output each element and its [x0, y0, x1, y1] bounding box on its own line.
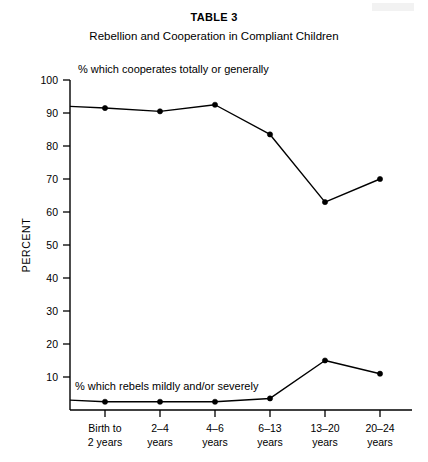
x-tick-label-line1: 6–13 — [258, 422, 282, 434]
data-point — [322, 200, 327, 205]
x-tick-label-line1: 13–20 — [310, 422, 339, 434]
x-tick-label-line2: years — [147, 436, 173, 448]
x-tick-label-line1: Birth to — [88, 422, 121, 434]
x-tick-label-line1: 4–6 — [206, 422, 224, 434]
annotation-lower-series: % which rebels mildly and/or severely — [75, 380, 259, 392]
y-tick-label: 50 — [46, 239, 58, 251]
figure-container: TABLE 3 Rebellion and Cooperation in Com… — [0, 0, 428, 462]
y-tick-marks — [63, 80, 70, 377]
y-tick-label: 80 — [46, 140, 58, 152]
chart-plot: 100 90 80 70 60 50 40 30 20 10 PERCENT B… — [0, 0, 428, 462]
x-tick-label-line2: years — [202, 436, 228, 448]
x-tick-label-line1: 2–4 — [151, 422, 169, 434]
y-tick-label: 60 — [46, 206, 58, 218]
data-point — [102, 105, 107, 110]
annotation-upper-series: % which cooperates totally or generally — [78, 63, 269, 75]
data-point — [267, 396, 272, 401]
y-tick-label: 30 — [46, 305, 58, 317]
data-point — [102, 399, 107, 404]
y-tick-label: 90 — [46, 107, 58, 119]
data-point — [377, 176, 382, 181]
x-tick-label-line2: years — [257, 436, 283, 448]
y-axis-title: PERCENT — [20, 218, 32, 272]
data-point — [212, 102, 217, 107]
x-tick-label-line2: years — [312, 436, 338, 448]
x-tick-labels: Birth to 2 years 2–4 years 4–6 years 6–1… — [88, 422, 395, 448]
y-tick-label: 20 — [46, 338, 58, 350]
x-tick-label-line2: years — [367, 436, 393, 448]
data-point — [267, 132, 272, 137]
x-tick-label-line1: 20–24 — [365, 422, 394, 434]
data-point — [212, 399, 217, 404]
y-tick-label: 40 — [46, 272, 58, 284]
y-tick-labels: 100 90 80 70 60 50 40 30 20 10 — [40, 74, 58, 383]
y-tick-label: 10 — [46, 371, 58, 383]
series-markers-cooperates — [102, 102, 382, 205]
x-tick-label-line2: 2 years — [88, 436, 122, 448]
series-line-cooperates — [70, 105, 380, 202]
y-tick-label: 100 — [40, 74, 58, 86]
x-tick-marks — [105, 410, 380, 417]
data-point — [377, 371, 382, 376]
data-point — [157, 109, 162, 114]
series-cooperates — [70, 102, 383, 205]
data-point — [157, 399, 162, 404]
y-tick-label: 70 — [46, 173, 58, 185]
data-point — [322, 358, 327, 363]
